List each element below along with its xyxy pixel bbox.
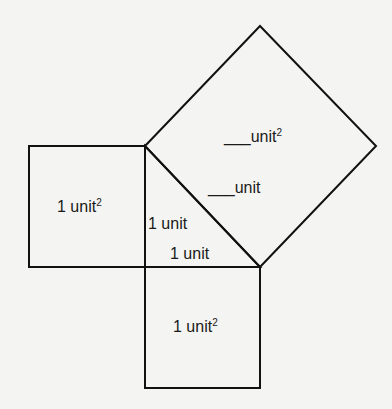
vertical-leg-label: 1 unit xyxy=(148,216,187,232)
left-square-area-label: 1 unit2 xyxy=(57,198,102,215)
hyp-side-text: ___unit xyxy=(208,179,261,196)
hyp-area-text: ___unit xyxy=(224,128,277,145)
bottom-area-text: 1 unit xyxy=(173,318,212,335)
vertical-leg-text: 1 unit xyxy=(148,215,187,232)
hypotenuse-square-area-label: ___unit2 xyxy=(224,128,282,145)
horizontal-leg-text: 1 unit xyxy=(170,245,209,262)
horizontal-leg-label: 1 unit xyxy=(170,246,209,262)
bottom-area-exponent: 2 xyxy=(212,317,218,328)
left-area-exponent: 2 xyxy=(96,197,102,208)
hypotenuse-side-label: ___unit xyxy=(208,180,261,196)
left-area-text: 1 unit xyxy=(57,198,96,215)
bottom-square-area-label: 1 unit2 xyxy=(173,318,218,335)
hyp-area-exponent: 2 xyxy=(277,127,283,138)
